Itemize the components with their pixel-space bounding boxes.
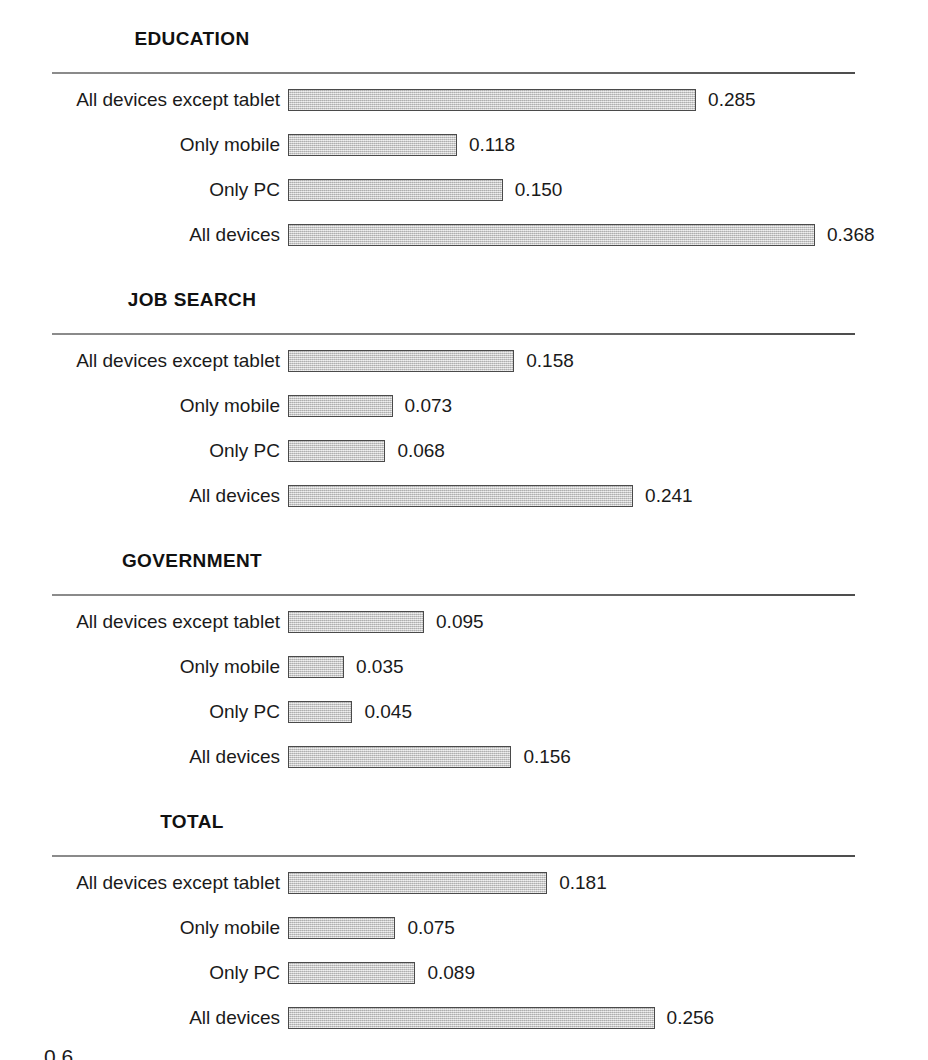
bar-value-label: 0.068 (397, 440, 445, 462)
chart-panel: GOVERNMENTAll devices except tablet0.095… (0, 548, 928, 574)
bar-rows: All devices except tablet0.095Only mobil… (0, 611, 928, 791)
bar-row: Only PC0.089 (0, 962, 928, 1007)
bar (288, 872, 547, 894)
bar (288, 395, 393, 417)
bar (288, 746, 511, 768)
bar-category-label: All devices (0, 746, 280, 768)
bar-row: All devices except tablet0.181 (0, 872, 928, 917)
bar (288, 656, 344, 678)
bar-chart-figure: EDUCATIONAll devices except tablet0.285O… (0, 0, 928, 1060)
bar-value-label: 0.181 (559, 872, 607, 894)
bar-rows: All devices except tablet0.181Only mobil… (0, 872, 928, 1052)
panel-divider (52, 72, 855, 74)
bar-value-label: 0.073 (405, 395, 453, 417)
bar (288, 224, 815, 246)
bar (288, 350, 514, 372)
bar-value-label: 0.075 (407, 917, 455, 939)
bar (288, 611, 424, 633)
bar-row: All devices except tablet0.095 (0, 611, 928, 656)
bar-value-label: 0.035 (356, 656, 404, 678)
chart-panel: TOTALAll devices except tablet0.181Only … (0, 809, 928, 835)
panel-title: TOTAL (42, 809, 342, 835)
bar (288, 134, 457, 156)
panel-divider (52, 594, 855, 596)
bar-value-label: 0.368 (827, 224, 875, 246)
bar-row: Only PC0.068 (0, 440, 928, 485)
bar-category-label: Only PC (0, 179, 280, 201)
bar-value-label: 0.045 (364, 701, 412, 723)
bar-row: Only mobile0.035 (0, 656, 928, 701)
bar-row: Only mobile0.118 (0, 134, 928, 179)
bar-category-label: Only PC (0, 440, 280, 462)
bar-category-label: Only mobile (0, 917, 280, 939)
bar (288, 485, 633, 507)
bar-rows: All devices except tablet0.158Only mobil… (0, 350, 928, 530)
bar-value-label: 0.256 (667, 1007, 715, 1029)
panel-title: GOVERNMENT (42, 548, 342, 574)
bar-value-label: 0.156 (523, 746, 571, 768)
bar-rows: All devices except tablet0.285Only mobil… (0, 89, 928, 269)
bar (288, 701, 352, 723)
bar-category-label: All devices except tablet (0, 611, 280, 633)
bar-category-label: All devices (0, 1007, 280, 1029)
bar (288, 89, 696, 111)
bar (288, 1007, 655, 1029)
bar-category-label: Only mobile (0, 395, 280, 417)
bar-value-label: 0.158 (526, 350, 574, 372)
bar (288, 917, 395, 939)
bar-category-label: Only mobile (0, 134, 280, 156)
bar-value-label: 0.285 (708, 89, 756, 111)
bar-row: Only mobile0.075 (0, 917, 928, 962)
panel-divider (52, 333, 855, 335)
bar-value-label: 0.241 (645, 485, 693, 507)
panel-title: JOB SEARCH (42, 287, 342, 313)
bar-category-label: All devices (0, 224, 280, 246)
bar-row: All devices0.156 (0, 746, 928, 791)
bar (288, 962, 415, 984)
bar-category-label: All devices except tablet (0, 350, 280, 372)
bar-category-label: Only mobile (0, 656, 280, 678)
bar-row: All devices except tablet0.158 (0, 350, 928, 395)
chart-panel: JOB SEARCHAll devices except tablet0.158… (0, 287, 928, 313)
bar-row: Only mobile0.073 (0, 395, 928, 440)
bar (288, 440, 385, 462)
bar-row: All devices0.241 (0, 485, 928, 530)
bar-row: Only PC0.150 (0, 179, 928, 224)
bar-value-label: 0.150 (515, 179, 563, 201)
bar-category-label: All devices except tablet (0, 89, 280, 111)
bar-row: All devices0.368 (0, 224, 928, 269)
panel-divider (52, 855, 855, 857)
bottom-cropped-fragment: 0.6 (44, 1046, 73, 1060)
panel-title: EDUCATION (42, 26, 342, 52)
bar-category-label: All devices (0, 485, 280, 507)
bar (288, 179, 503, 201)
bar-category-label: Only PC (0, 701, 280, 723)
bar-category-label: Only PC (0, 962, 280, 984)
bar-row: Only PC0.045 (0, 701, 928, 746)
bar-value-label: 0.095 (436, 611, 484, 633)
bar-value-label: 0.089 (427, 962, 475, 984)
chart-panel: EDUCATIONAll devices except tablet0.285O… (0, 26, 928, 52)
bar-category-label: All devices except tablet (0, 872, 280, 894)
bar-row: All devices0.256 (0, 1007, 928, 1052)
bar-row: All devices except tablet0.285 (0, 89, 928, 134)
bar-value-label: 0.118 (469, 134, 515, 156)
